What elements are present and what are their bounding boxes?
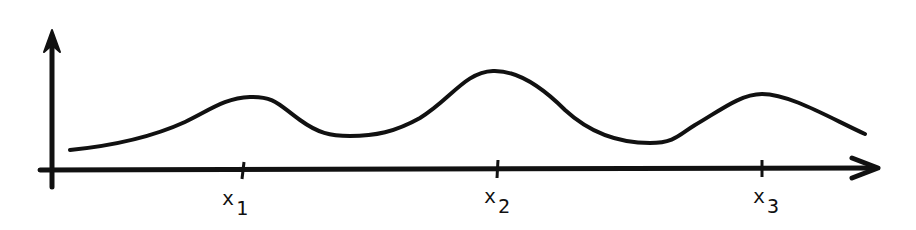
tick-label-x3-subscript: 3 — [767, 196, 779, 216]
tick-x2 — [497, 160, 498, 178]
tick-label-x2-base: x — [484, 184, 496, 208]
tick-label-x3-base: x — [753, 184, 765, 208]
tick-label-x1: x 1 — [222, 188, 234, 208]
tick-label-x2-subscript: 2 — [498, 196, 510, 216]
tick-label-x1-base: x — [222, 186, 234, 210]
x-axis — [40, 168, 872, 170]
tick-label-x3: x 3 — [753, 186, 765, 206]
tick-label-x1-subscript: 1 — [236, 198, 248, 218]
tick-x1 — [242, 162, 244, 179]
curve — [70, 71, 865, 150]
tick-label-x2: x 2 — [484, 186, 496, 206]
